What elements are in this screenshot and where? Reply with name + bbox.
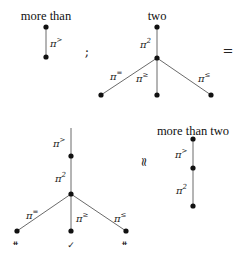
tree-more-than-two: more than two π> π2 — [157, 124, 229, 209]
leaf-node — [98, 92, 103, 97]
fail-mark-icon: ⧧ — [11, 241, 21, 246]
node — [43, 54, 48, 59]
edge-label-pi-leq: π≤ — [197, 71, 211, 84]
check-mark-icon: ✓ — [67, 240, 75, 250]
edge-label-pi-gt: π> — [49, 36, 63, 49]
leaf-node — [208, 92, 213, 97]
root-label-two: two — [148, 9, 167, 23]
edge-label-pi-eq: π= — [109, 69, 123, 82]
root-label-more-than-two: more than two — [157, 124, 229, 138]
fail-mark-icon: ⧧ — [120, 241, 130, 246]
tree-two: two π2 π= π≥ π≤ — [98, 9, 213, 98]
edge-label-pi-2: π2 — [139, 37, 152, 50]
node — [68, 191, 73, 196]
edge-label-pi-gt: π> — [174, 147, 188, 160]
edge-label-pi-eq: π= — [25, 208, 39, 221]
leaf-node — [14, 228, 19, 233]
tree-diagram: more than π> ; two π2 π= π≥ π≤ = π> — [0, 0, 242, 261]
equals-sign: = — [223, 43, 234, 58]
leaf-node — [123, 228, 128, 233]
edge-label-pi-leq: π≤ — [113, 211, 127, 224]
leaf-node — [154, 92, 159, 97]
semicolon-separator: ; — [85, 44, 89, 59]
edge-label-pi-geq: π≥ — [75, 211, 89, 224]
edge-label-pi-gt: π> — [52, 136, 66, 149]
composed-tree: π> π2 π= π≥ π≤ ⧧ ✓ ⧧ — [11, 128, 130, 250]
node — [154, 55, 159, 60]
node — [190, 165, 195, 170]
edge-label-pi-2: π2 — [175, 183, 188, 196]
node — [154, 24, 159, 29]
tree-more-than: more than π> — [21, 9, 72, 60]
approx-sign: ≈ — [137, 157, 152, 168]
edge-label-pi-2: π2 — [54, 171, 67, 184]
node — [68, 153, 73, 158]
edge-label-pi-geq: π≥ — [135, 71, 149, 84]
leaf-node — [68, 228, 73, 233]
leaf-node — [190, 203, 195, 208]
node — [43, 24, 48, 29]
node — [190, 136, 195, 141]
root-label-more-than: more than — [21, 9, 72, 23]
